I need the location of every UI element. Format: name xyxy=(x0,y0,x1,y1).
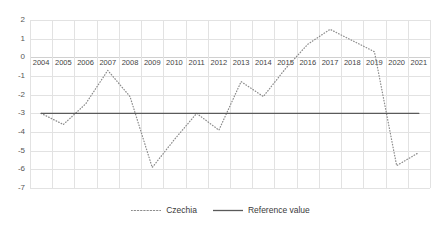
legend-swatch-dotted-icon xyxy=(131,207,161,214)
y-tick-label: -4 xyxy=(18,128,25,136)
y-tick-label: -7 xyxy=(18,184,25,192)
legend-label-czechia: Czechia xyxy=(166,206,197,215)
y-tick-label: -3 xyxy=(18,109,25,117)
chart-legend: Czechia Reference value xyxy=(0,206,441,215)
y-tick-label: -1 xyxy=(18,72,25,80)
plot-area: 210-1-2-3-4-5-6-7 2004200520062007200820… xyxy=(30,20,430,188)
y-tick-label: -2 xyxy=(18,91,25,99)
gridline-x xyxy=(430,20,431,188)
chart-container: 210-1-2-3-4-5-6-7 2004200520062007200820… xyxy=(0,0,441,238)
y-tick-label: 2 xyxy=(21,16,25,24)
gridline-y--7 xyxy=(30,188,430,189)
y-tick-label: 1 xyxy=(21,35,25,43)
legend-label-reference-value: Reference value xyxy=(248,206,310,215)
y-tick-label: 0 xyxy=(21,53,25,61)
legend-swatch-solid-icon xyxy=(213,207,243,214)
legend-item-czechia: Czechia xyxy=(131,206,197,215)
legend-item-reference-value: Reference value xyxy=(213,206,310,215)
series-line-czechia xyxy=(41,29,419,167)
y-tick-label: -5 xyxy=(18,147,25,155)
series-lines xyxy=(30,20,430,188)
y-tick-label: -6 xyxy=(18,165,25,173)
